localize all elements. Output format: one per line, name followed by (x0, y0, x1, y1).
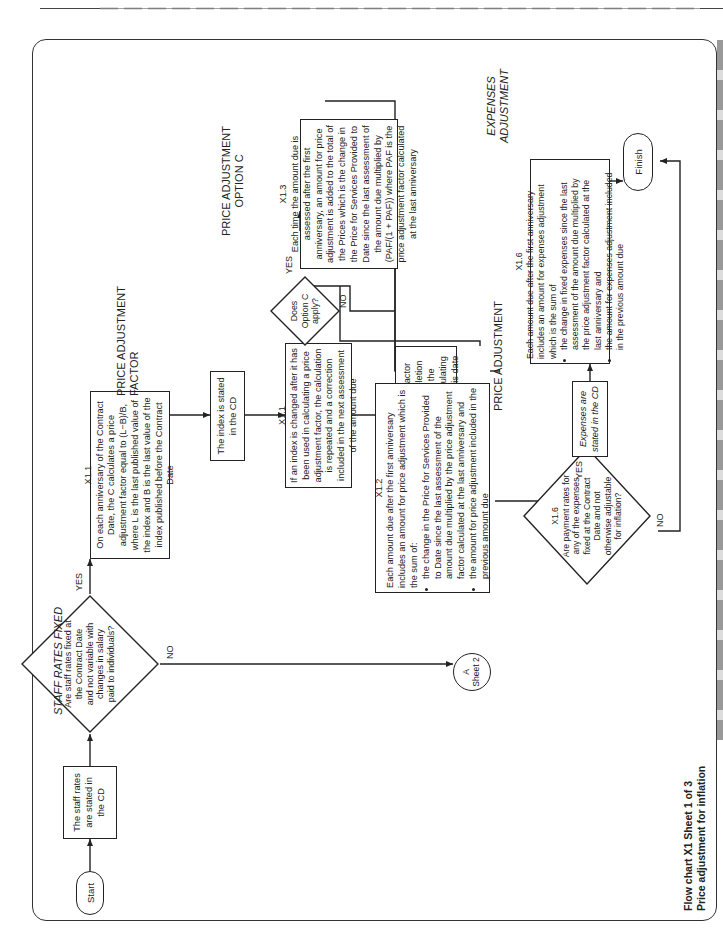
expenses-stated-text: Expenses are stated in the CD (578, 386, 602, 452)
staff-rates-decision: Are staff rates fixed at the Contract Da… (20, 594, 160, 734)
caption-line-2: Price adjustment for inflation (695, 766, 708, 911)
expenses-bullets: the change in fixed expenses since the l… (559, 164, 627, 359)
section-label-staff-rates-fixed: STAFF RATES FIXED (52, 581, 65, 741)
start-label: Start (85, 883, 96, 903)
flowchart-canvas: Start The staff rates are stated in the … (0, 0, 723, 931)
option-c-box: X1.3 Each time the amount due is assesse… (300, 119, 398, 269)
option-c-no-label: NO (338, 295, 348, 309)
index-changed-box: X1.1 If an index is changed after it has… (285, 343, 352, 488)
option-c-decision: Does Option C apply? (270, 276, 340, 346)
price-adjustment-ref: X1.2 (374, 388, 386, 588)
option-c-text: Each time the amount due is assessed aft… (290, 124, 419, 264)
expenses-stated-box: Expenses are stated in the CD (572, 381, 608, 457)
section-label-price-adjustment: PRICE ADJUSTMENT (492, 291, 505, 411)
price-adjustment-bullet: the change in the Price for Services Pro… (421, 388, 468, 579)
staff-rates-stated-text: The staff rates are stated in the CD (72, 771, 107, 834)
price-adjustment-bullets: the change in the Price for Services Pro… (421, 388, 492, 588)
index-changed-ref: X1.1 (277, 348, 289, 483)
connector-sheet: Sheet 2 (471, 657, 481, 686)
flowchart-caption: Flow chart X1 Sheet 1 of 3 Price adjustm… (682, 766, 708, 911)
start-terminal: Start (76, 871, 104, 915)
price-adjustment-box: X1.2 Each amount due after the first ann… (375, 383, 490, 593)
expenses-intro: Each amount due after the first annivers… (525, 164, 559, 359)
expenses-decision: X1.6 Are payment rates for any of the ex… (522, 446, 652, 586)
paf-calc-ref: X1.1 (83, 396, 95, 554)
connector-letter: A (461, 669, 471, 675)
finish-terminal: Finish (623, 133, 653, 191)
section-label-price-adjustment-factor: PRICE ADJUSTMENT FACTOR (115, 256, 141, 396)
section-label-price-adjustment-option-c: PRICE ADJUSTMENT OPTION C (220, 111, 246, 251)
expenses-decision-text: Are payment rates for any of the expense… (561, 474, 624, 558)
staff-rates-stated-box: The staff rates are stated in the CD (63, 766, 117, 839)
sheet-2-connector[interactable]: A Sheet 2 (453, 653, 491, 691)
caption-line-1: Flow chart X1 Sheet 1 of 3 (682, 766, 695, 911)
price-adjustment-bullet: the amount for price adjustment included… (468, 388, 492, 579)
finish-label: Finish (633, 149, 644, 174)
expenses-ref: X1.6 (514, 164, 525, 359)
staff-no-label: NO (165, 646, 175, 660)
expenses-no-label: NO (655, 514, 665, 528)
paf-calc-text: On each anniversary of the Contract Date… (95, 396, 177, 554)
section-label-expenses-adjustment: EXPENSES ADJUSTMENT (485, 51, 511, 161)
expenses-decision-ref: X1.6 (550, 507, 560, 525)
staff-rates-decision-text: Are staff rates fixed at the Contract Da… (63, 620, 118, 708)
staff-yes-label: YES (74, 573, 84, 591)
expenses-bullet: the change in fixed expenses since the l… (559, 164, 604, 350)
price-adjustment-intro: Each amount due after the first annivers… (385, 388, 420, 588)
expenses-adjustment-box: X1.6 Each amount due after the first ann… (530, 159, 610, 364)
option-c-decision-text: Does Option C apply? (289, 290, 321, 332)
option-c-ref: X1.3 (278, 124, 290, 264)
index-stated-text: The index is stated in the CD (216, 376, 240, 456)
index-changed-text: If an index is changed after it has been… (289, 348, 360, 483)
index-stated-box: The index is stated in the CD (210, 371, 245, 461)
expenses-yes-label: YES (574, 461, 584, 479)
paf-calculation-box: X1.1 On each anniversary of the Contract… (90, 391, 170, 559)
expenses-bullet: the amount for expenses adjustment inclu… (604, 164, 627, 350)
